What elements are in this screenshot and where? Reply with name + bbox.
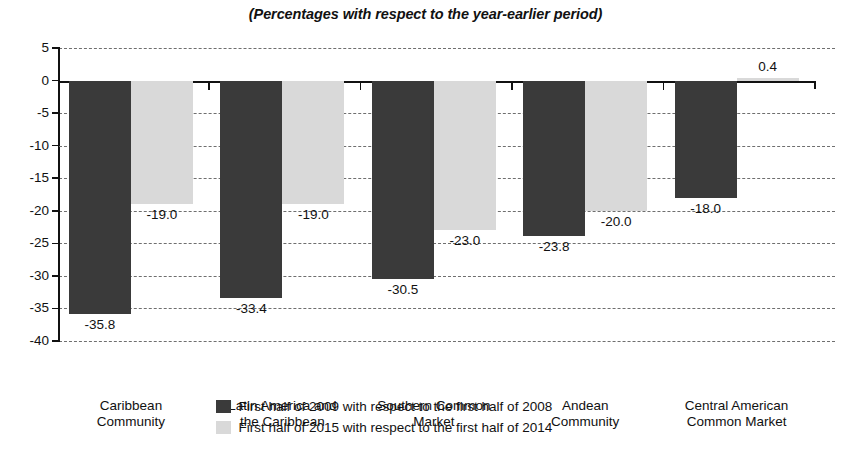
bar xyxy=(523,81,585,236)
y-axis-tick-label: -40 xyxy=(7,334,49,348)
bar-value-label: -35.8 xyxy=(57,318,143,332)
bar-value-label: 0.4 xyxy=(725,60,811,74)
bar xyxy=(220,81,282,298)
bar xyxy=(69,81,131,314)
legend-swatch-dark-icon xyxy=(216,400,231,413)
y-axis-line xyxy=(58,48,60,341)
category-axis-tick xyxy=(360,82,362,90)
category-axis-tick xyxy=(208,82,210,90)
y-axis-tick-label: -30 xyxy=(7,269,49,283)
gridline xyxy=(59,276,835,277)
y-axis-tick xyxy=(52,340,60,342)
y-axis-tick-label: 0 xyxy=(7,74,49,88)
y-axis-tick-label: -35 xyxy=(7,302,49,316)
y-axis-tick-label: -5 xyxy=(7,106,49,120)
gridline xyxy=(59,308,835,309)
bar-value-label: -20.0 xyxy=(573,215,659,229)
bar-value-label: -30.5 xyxy=(360,283,446,297)
y-axis-tick-label: -15 xyxy=(7,171,49,185)
bar-value-label: -19.0 xyxy=(270,208,356,222)
legend-swatch-light-icon xyxy=(216,421,231,434)
chart-figure: (Percentages with respect to the year-ea… xyxy=(0,0,851,456)
y-axis-tick xyxy=(52,243,60,245)
legend-label-series-1: First half of 2009 with respect to the f… xyxy=(239,399,553,414)
bar xyxy=(675,81,737,198)
y-axis-tick xyxy=(52,112,60,114)
bar-value-label: -23.0 xyxy=(422,234,508,248)
category-axis-tick xyxy=(663,82,665,90)
y-axis-tick xyxy=(52,275,60,277)
legend-item-series-2: First half of 2015 with respect to the f… xyxy=(0,417,851,438)
legend-label-series-2: First half of 2015 with respect to the f… xyxy=(239,420,553,435)
bar xyxy=(131,81,193,205)
bar xyxy=(372,81,434,280)
gridline xyxy=(59,341,835,342)
bar xyxy=(282,81,344,205)
y-axis-tick-label: -10 xyxy=(7,139,49,153)
bar xyxy=(585,81,647,211)
bar xyxy=(737,78,799,81)
y-axis-tick xyxy=(52,210,60,212)
bar-value-label: -33.4 xyxy=(208,302,294,316)
y-axis-tick xyxy=(52,145,60,147)
bar xyxy=(434,81,496,231)
bar-value-label: -23.8 xyxy=(511,240,597,254)
y-axis-tick xyxy=(52,177,60,179)
legend-item-series-1: First half of 2009 with respect to the f… xyxy=(0,396,851,417)
plot-area: 50-5-10-15-20-25-30-35-40 -35.8-19.0-33.… xyxy=(59,48,835,341)
zero-axis-end-tick xyxy=(814,81,816,89)
gridline xyxy=(59,48,835,49)
y-axis-tick-label: 5 xyxy=(7,41,49,55)
chart-title: (Percentages with respect to the year-ea… xyxy=(0,6,851,22)
y-axis-tick-label: -25 xyxy=(7,237,49,251)
category-axis-tick xyxy=(511,82,513,90)
bar-value-label: -19.0 xyxy=(119,208,205,222)
chart-legend: First half of 2009 with respect to the f… xyxy=(0,396,851,438)
bar-value-label: -18.0 xyxy=(663,202,749,216)
y-axis-tick xyxy=(52,308,60,310)
y-axis-tick xyxy=(52,47,60,49)
y-axis-tick-label: -20 xyxy=(7,204,49,218)
